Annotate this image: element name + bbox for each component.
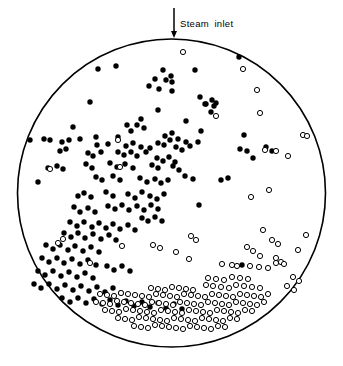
open-data-point (247, 263, 252, 268)
filled-data-point (169, 79, 174, 84)
filled-data-point (198, 128, 203, 133)
open-data-point (284, 283, 289, 288)
open-data-point (142, 302, 147, 307)
open-data-point (60, 236, 65, 241)
open-data-point (160, 292, 165, 297)
filled-data-point (168, 73, 173, 78)
filled-data-point (218, 177, 223, 182)
filled-data-point (94, 142, 99, 147)
filled-data-point (105, 203, 110, 208)
filled-data-point (126, 207, 131, 212)
open-data-point (234, 263, 239, 268)
open-data-point (176, 285, 181, 290)
filled-data-point (106, 232, 111, 237)
open-data-point (117, 164, 122, 169)
filled-data-point (57, 148, 62, 153)
filled-data-point (46, 259, 51, 264)
steam-inlet-label: Steam inlet (180, 18, 233, 29)
filled-data-point (179, 147, 184, 152)
filled-data-point (130, 140, 135, 145)
filled-data-point (236, 54, 241, 59)
open-data-point (303, 232, 308, 237)
open-data-point (210, 283, 215, 288)
filled-data-point (62, 282, 67, 287)
open-data-point (245, 276, 250, 281)
filled-data-point (46, 281, 51, 286)
distribution-diagram-svg: Steam inlet (0, 0, 343, 366)
open-data-point (121, 299, 126, 304)
filled-data-point (103, 225, 108, 230)
open-data-point (143, 315, 148, 320)
open-data-point (169, 284, 174, 289)
open-data-point (273, 260, 278, 265)
filled-data-point (104, 263, 109, 268)
open-data-point (118, 290, 123, 295)
filled-data-point (123, 143, 128, 148)
filled-data-point (141, 207, 146, 212)
open-data-point (260, 227, 265, 232)
open-data-point (114, 298, 119, 303)
filled-data-point (225, 175, 230, 180)
open-data-point (198, 302, 203, 307)
open-data-point (202, 294, 207, 299)
open-data-point (269, 237, 274, 242)
filled-data-point (250, 155, 255, 160)
open-data-point (150, 242, 155, 247)
open-data-point (186, 256, 191, 261)
filled-data-point (74, 223, 79, 228)
filled-data-point (197, 94, 202, 99)
filled-data-point (72, 243, 77, 248)
filled-data-point (66, 269, 71, 274)
open-data-point (166, 324, 171, 329)
filled-data-point (105, 141, 110, 146)
filled-data-point (90, 275, 95, 280)
open-data-point (213, 113, 218, 118)
filled-data-point (112, 206, 117, 211)
open-data-point (195, 293, 200, 298)
open-data-point (233, 299, 238, 304)
open-data-point (200, 309, 205, 314)
open-data-point (100, 300, 105, 305)
filled-data-point (161, 191, 166, 196)
open-data-point (295, 247, 300, 252)
filled-data-point (42, 272, 47, 277)
filled-data-point (241, 132, 246, 137)
open-data-point (257, 253, 262, 258)
filled-data-point (35, 268, 40, 273)
open-data-point (162, 287, 167, 292)
filled-data-point (92, 209, 97, 214)
filled-data-point (110, 193, 115, 198)
open-data-point (275, 241, 280, 246)
open-data-point (229, 274, 234, 279)
open-data-point (250, 248, 255, 253)
filled-data-point (70, 124, 75, 129)
open-data-point (199, 315, 204, 320)
filled-data-point (117, 226, 122, 231)
open-data-point (146, 294, 151, 299)
open-data-point (235, 310, 240, 315)
open-data-point (145, 325, 150, 330)
filled-data-point (54, 255, 59, 260)
filled-data-point (144, 179, 149, 184)
open-data-point (137, 308, 142, 313)
filled-data-point (93, 174, 98, 179)
open-data-point (237, 275, 242, 280)
filled-data-point (83, 161, 88, 166)
filled-data-point (187, 143, 192, 148)
filled-data-point (61, 230, 66, 235)
filled-data-point (130, 165, 135, 170)
open-data-point (265, 291, 270, 296)
filled-data-point (115, 149, 120, 154)
filled-data-point (90, 231, 95, 236)
open-data-point (179, 310, 184, 315)
open-data-point (254, 302, 259, 307)
filled-data-point (125, 191, 130, 196)
filled-data-point (43, 242, 48, 247)
filled-data-point (39, 255, 44, 260)
filled-data-point (154, 155, 159, 160)
filled-data-point (75, 193, 80, 198)
open-data-point (228, 309, 233, 314)
open-data-point (184, 300, 189, 305)
filled-data-point (139, 189, 144, 194)
filled-data-point (138, 116, 143, 121)
